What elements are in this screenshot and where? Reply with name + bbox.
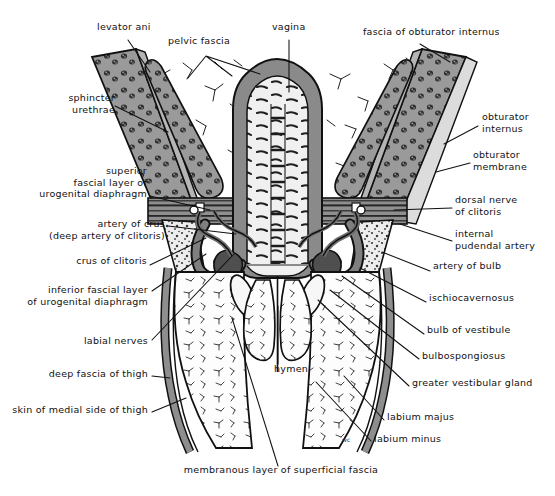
label-membranous-layer-of-superficial-fascia: membranous layer of superficial fascia	[146, 464, 416, 476]
label-ischiocavernosus: ischiocavernosus	[429, 292, 514, 304]
label-obturator-membrane: obturator membrane	[473, 149, 527, 172]
label-bulbospongiosus: bulbospongiosus	[422, 350, 506, 362]
label-artery-of-bulb: artery of bulb	[433, 260, 501, 272]
label-labium-minus: labium minus	[374, 433, 441, 445]
label-bulb-of-vestibule: bulb of vestibule	[427, 324, 510, 336]
label-artery-of-crus: artery of crus (deep artery of clitoris)	[0, 218, 165, 241]
label-hymen: hymen	[274, 363, 308, 375]
label-pelvic-fascia: pelvic fascia	[168, 35, 230, 47]
label-dorsal-nerve-of-clitoris: dorsal nerve of clitoris	[455, 194, 517, 217]
label-artist-mark: wc	[342, 434, 350, 446]
anatomical-figure: levator ani pelvic fascia vagina fascia …	[0, 0, 555, 496]
vagina	[233, 59, 322, 278]
label-inferior-fascial-layer: inferior fascial layer of urogenital dia…	[0, 284, 148, 307]
label-sphincter-urethrae: sphincter urethrae	[0, 92, 115, 115]
label-obturator-internus: obturator internus	[482, 111, 529, 134]
label-superior-fascial-layer: superior fascial layer of urogenital dia…	[0, 165, 147, 200]
label-fascia-of-obturator-internus: fascia of obturator internus	[363, 26, 500, 38]
label-internal-pudendal-artery: internal pudendal artery	[455, 228, 535, 251]
label-levator-ani: levator ani	[97, 21, 151, 33]
label-deep-fascia-of-thigh: deep fascia of thigh	[0, 368, 148, 380]
label-skin-of-medial-side-of-thigh: skin of medial side of thigh	[0, 404, 148, 416]
label-labium-majus: labium majus	[387, 411, 454, 423]
label-vagina: vagina	[272, 21, 305, 33]
label-labial-nerves: labial nerves	[0, 335, 148, 347]
label-crus-of-clitoris: crus of clitoris	[0, 255, 147, 267]
label-greater-vestibular-gland: greater vestibular gland	[412, 377, 533, 389]
